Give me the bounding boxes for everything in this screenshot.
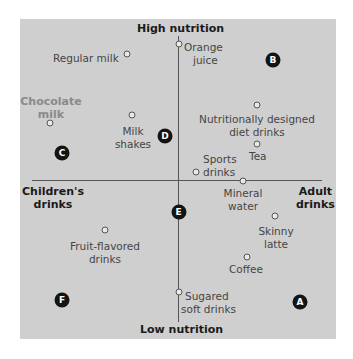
label-line: drinks — [66, 253, 144, 266]
label-orange-juice: Orange juice — [184, 41, 223, 67]
label-line: Coffee — [229, 263, 263, 276]
label-line: Chocolate — [20, 95, 82, 108]
label-line: Sports — [203, 153, 237, 166]
label-nutritionally-designed-diet-drinks: Nutritionally designed diet drinks — [196, 113, 318, 139]
segment-badge-a: A — [293, 295, 308, 310]
axis-title-childrens-drinks: Children's drinks — [22, 185, 84, 211]
label-line: shakes — [110, 138, 156, 151]
label-line: Milk — [110, 125, 156, 138]
segment-badge-b: B — [266, 53, 281, 68]
label-line: Sugared — [181, 290, 236, 303]
label-tea: Tea — [249, 150, 267, 163]
label-line: Fruit-flavored — [66, 240, 144, 253]
axis-title-adult-drinks: Adult drinks — [296, 185, 335, 211]
axis-title-high-nutrition: High nutrition — [137, 22, 224, 35]
axis-title-low-nutrition: Low nutrition — [140, 323, 223, 336]
point-nutritionally-designed-diet-drinks — [254, 102, 261, 109]
axis-title-line: drinks — [22, 198, 84, 211]
label-line: juice — [184, 54, 223, 67]
segment-badge-e: E — [171, 205, 186, 220]
label-line: soft drinks — [181, 303, 236, 316]
point-skinny-latte — [272, 213, 279, 220]
label-sugared-soft-drinks: Sugared soft drinks — [181, 290, 236, 316]
label-line: latte — [256, 238, 296, 251]
axis-title-line: Children's — [22, 185, 84, 198]
label-line: milk — [20, 108, 82, 121]
label-line: Orange — [184, 41, 223, 54]
vertical-axis-line — [178, 36, 179, 322]
point-mineral-water — [240, 177, 247, 184]
point-tea — [254, 141, 261, 148]
horizontal-axis-line — [32, 180, 322, 181]
label-mineral-water: Mineral water — [218, 187, 268, 213]
label-line: Mineral — [218, 187, 268, 200]
label-line: diet drinks — [196, 126, 318, 139]
label-line: drinks — [203, 166, 237, 179]
label-sports-drinks: Sports drinks — [203, 153, 237, 179]
label-line: water — [218, 200, 268, 213]
label-skinny-latte: Skinny latte — [256, 225, 296, 251]
point-orange-juice — [175, 41, 182, 48]
label-regular-milk: Regular milk — [53, 52, 119, 65]
segment-badge-c: C — [55, 146, 70, 161]
point-fruit-flavored-drinks — [102, 227, 109, 234]
label-milk-shakes: Milk shakes — [110, 125, 156, 151]
axis-title-line: drinks — [296, 198, 335, 211]
segment-badge-f: F — [55, 293, 70, 308]
label-coffee: Coffee — [229, 263, 263, 276]
point-milk-shakes — [129, 112, 136, 119]
label-line: Skinny — [256, 225, 296, 238]
point-sports-drinks — [193, 169, 200, 176]
point-regular-milk — [124, 51, 131, 58]
label-line: Regular milk — [53, 52, 119, 65]
label-line: Tea — [249, 150, 267, 163]
axis-title-line: Adult — [296, 185, 335, 198]
point-coffee — [244, 254, 251, 261]
label-line: Nutritionally designed — [196, 113, 318, 126]
label-fruit-flavored-drinks: Fruit-flavored drinks — [66, 240, 144, 266]
label-chocolate-milk: Chocolate milk — [20, 95, 82, 121]
segment-badge-d: D — [158, 129, 173, 144]
